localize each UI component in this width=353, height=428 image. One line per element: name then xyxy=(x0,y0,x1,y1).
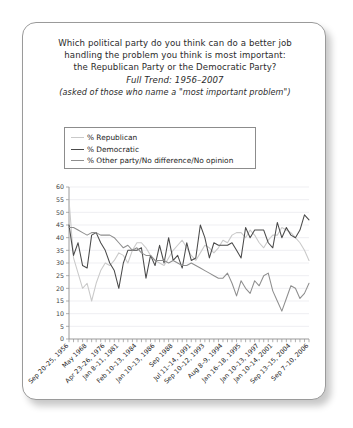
legend-item-republican: % Republican xyxy=(71,132,255,143)
ytick-label: 60 xyxy=(56,183,64,190)
yaxis-group: 051015202530354045505560 xyxy=(56,183,69,342)
ytick-label: 40 xyxy=(56,234,64,241)
title-line-2: handling the problem you think is most i… xyxy=(29,49,321,61)
ytick-label: 10 xyxy=(56,310,64,317)
gridlines-group xyxy=(69,187,309,326)
ytick-label: 50 xyxy=(56,209,64,216)
ytick-label: 25 xyxy=(56,272,64,279)
ytick-label: 55 xyxy=(56,196,64,203)
legend-line-swatch-other xyxy=(71,160,84,161)
ytick-label: 45 xyxy=(56,221,64,228)
legend-line-swatch-republican xyxy=(71,137,84,138)
legend-label-other: % Other party/No difference/No opinion xyxy=(87,156,233,165)
xtick-labels-group: Sep 20–25, 1956May 1968Apr 23–26, 1976Ja… xyxy=(27,342,311,386)
poll-chart-card: Which political party do you think can d… xyxy=(22,22,326,400)
ytick-label: 30 xyxy=(56,259,64,266)
legend-item-democratic: % Democratic xyxy=(71,143,255,154)
ytick-label: 15 xyxy=(56,297,64,304)
chart-plot-area: 051015202530354045505560 Sep 20–25, 1956… xyxy=(23,179,325,399)
title-line-3: the Republican Party or the Democratic P… xyxy=(29,61,321,73)
xaxis-group xyxy=(69,339,309,342)
series-line-2 xyxy=(69,228,309,312)
legend-label-republican: % Republican xyxy=(87,133,137,142)
legend-label-democratic: % Democratic xyxy=(87,145,139,154)
chart-title-block: Which political party do you think can d… xyxy=(29,37,321,98)
title-line-subtitle: Full Trend: 1956–2007 xyxy=(29,74,321,86)
ytick-label: 35 xyxy=(56,247,64,254)
ytick-label: 5 xyxy=(60,323,64,330)
series-line-1 xyxy=(69,215,309,288)
legend-item-other: % Other party/No difference/No opinion xyxy=(71,155,255,166)
ytick-label: 0 xyxy=(60,335,64,342)
title-line-note: (asked of those who name a "most importa… xyxy=(29,86,321,98)
line-chart-svg: 051015202530354045505560 Sep 20–25, 1956… xyxy=(23,179,325,399)
chart-legend: % Republican % Democratic % Other party/… xyxy=(64,127,256,169)
ytick-label: 20 xyxy=(56,285,64,292)
legend-line-swatch-democratic xyxy=(71,149,84,150)
title-line-1: Which political party do you think can d… xyxy=(29,37,321,49)
screenshot-root: Which political party do you think can d… xyxy=(0,0,353,428)
series-group xyxy=(69,200,309,311)
